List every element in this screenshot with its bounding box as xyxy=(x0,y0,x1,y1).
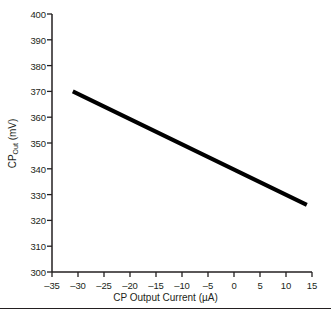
x-tick-label: 0 xyxy=(231,280,236,291)
chart-figure: 300310320330340350360370380390400 –35–30… xyxy=(0,0,331,316)
y-axis-title-wrapper: CPOut (mV) xyxy=(2,0,24,286)
x-tick-label: –15 xyxy=(148,280,164,291)
x-tick-label: 15 xyxy=(307,280,317,291)
x-tick-label: 5 xyxy=(257,280,262,291)
x-tick-label: –30 xyxy=(70,280,86,291)
data-line xyxy=(73,91,307,205)
data-series-group xyxy=(73,91,307,205)
x-tick-label: –5 xyxy=(203,280,213,291)
chart-axes xyxy=(0,0,331,316)
x-tick-label: 10 xyxy=(281,280,291,291)
y-axis-title-base: CP xyxy=(8,154,19,168)
y-axis-title: CPOut (mV) xyxy=(8,118,19,168)
x-tick-label: –35 xyxy=(44,280,60,291)
footer-divider xyxy=(0,308,331,309)
x-tick-label: –25 xyxy=(96,280,112,291)
y-axis-title-subscript: Out xyxy=(13,143,20,154)
x-tick-label: –20 xyxy=(122,280,138,291)
x-axis-title: CP Output Current (µA) xyxy=(0,292,331,303)
y-axis-title-unit: (mV) xyxy=(8,118,19,142)
x-tick-label: –10 xyxy=(174,280,190,291)
